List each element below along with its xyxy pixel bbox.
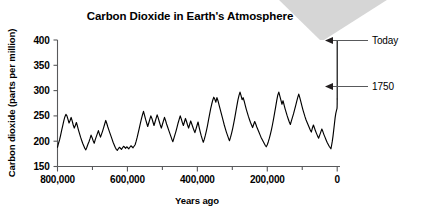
y-axis-title: Carbon dioxide (parts per million)	[6, 29, 17, 178]
y-tick-label: 350	[33, 60, 50, 71]
chart-canvas: Carbon Dioxide in Earth's Atmosphere Car…	[0, 0, 421, 211]
co2-record-line	[58, 92, 338, 150]
x-axis-title: Years ago	[175, 195, 219, 206]
y-tick-label: 300	[33, 85, 50, 96]
y-tick-marks	[54, 40, 58, 167]
x-axis: 800,000600,000400,000200,0000	[40, 167, 340, 185]
y-tick-label: 250	[33, 110, 50, 121]
y-axis: 150200250300350400	[33, 35, 57, 173]
x-tick-label: 200,000	[250, 174, 285, 185]
1750-arrowhead-icon	[325, 83, 333, 90]
y-tick-label: 400	[33, 35, 50, 46]
x-tick-marks	[58, 167, 338, 172]
annotation-1750: 1750	[325, 81, 394, 92]
x-tick-label: 0	[335, 174, 341, 185]
x-tick-label: 800,000	[40, 174, 75, 185]
1750-annotation-label: 1750	[372, 81, 394, 92]
y-tick-label: 150	[33, 161, 50, 172]
annotation-today: Today	[325, 35, 398, 46]
x-tick-labels: 800,000600,000400,000200,0000	[40, 174, 340, 185]
x-tick-label: 400,000	[180, 174, 215, 185]
co2-chart-figure: Carbon Dioxide in Earth's Atmosphere Car…	[0, 0, 421, 211]
today-annotation-label: Today	[372, 35, 398, 46]
y-tick-labels: 150200250300350400	[33, 35, 50, 173]
magnifier-funnel-shape	[277, 0, 390, 40]
chart-title: Carbon Dioxide in Earth's Atmosphere	[87, 10, 293, 22]
y-tick-label: 200	[33, 136, 50, 147]
x-tick-label: 600,000	[110, 174, 145, 185]
